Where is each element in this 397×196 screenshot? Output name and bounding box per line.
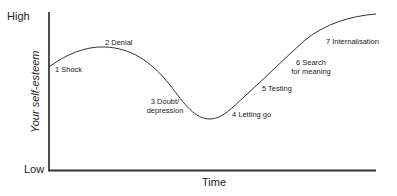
- y-axis-low-label: Low: [24, 163, 44, 175]
- stage-3-label-line2: depression: [145, 106, 185, 115]
- x-axis-title: Time: [202, 176, 226, 188]
- stage-7-label: 7 Internalisation: [326, 37, 379, 46]
- stage-4-label: 4 Letting go: [232, 110, 271, 119]
- y-axis-title: Your self-esteem: [29, 53, 41, 133]
- stage-1-label: 1 Shock: [55, 65, 82, 74]
- stage-6-label: 6 Search for meaning: [289, 58, 333, 76]
- stage-6-label-line1: 6 Search: [289, 58, 333, 67]
- stage-5-label: 5 Testing: [262, 84, 292, 93]
- change-curve-diagram: [0, 0, 397, 196]
- stage-3-label-line1: 3 Doubt/: [145, 97, 185, 106]
- stage-6-label-line2: for meaning: [289, 67, 333, 76]
- stage-3-label: 3 Doubt/ depression: [145, 97, 185, 115]
- y-axis-high-label: High: [7, 10, 30, 22]
- stage-2-label: 2 Denial: [105, 38, 133, 47]
